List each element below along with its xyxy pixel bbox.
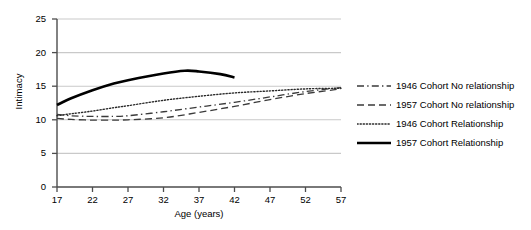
y-axis-title: Intimacy xyxy=(13,42,24,142)
x-tick-label: 52 xyxy=(294,194,318,205)
legend-item[interactable]: 1946 Cohort No relationship xyxy=(357,76,531,95)
x-tick-label: 17 xyxy=(45,194,69,205)
x-tick-label: 27 xyxy=(116,194,140,205)
x-tick-label: 42 xyxy=(223,194,247,205)
series-line-3 xyxy=(57,71,235,105)
legend-item[interactable]: 1957 Cohort No relationship xyxy=(357,95,531,114)
legend-swatch-dotted-icon xyxy=(357,118,391,130)
tick-marks xyxy=(52,19,341,192)
chart-figure: Intimacy Age (years) 2520151050 17222732… xyxy=(0,0,531,230)
y-tick-label: 25 xyxy=(24,13,46,24)
x-axis-title: Age (years) xyxy=(57,208,341,219)
legend-label: 1957 Cohort No relationship xyxy=(396,100,514,110)
x-tick-label: 22 xyxy=(81,194,105,205)
y-tick-label: 0 xyxy=(24,181,46,192)
legend-swatch-solid-icon xyxy=(357,137,391,149)
legend-label: 1946 Cohort No relationship xyxy=(396,81,514,91)
x-tick-label: 57 xyxy=(329,194,353,205)
x-tick-label: 47 xyxy=(258,194,282,205)
series-line-1 xyxy=(57,89,341,120)
x-tick-label: 37 xyxy=(187,194,211,205)
axis-lines xyxy=(57,19,341,187)
legend-swatch-dash-dot-icon xyxy=(357,80,391,92)
legend-label: 1946 Cohort Relationship xyxy=(396,119,503,129)
gridlines xyxy=(57,19,341,187)
x-tick-label: 32 xyxy=(152,194,176,205)
y-tick-label: 5 xyxy=(24,147,46,158)
series-lines xyxy=(57,71,341,121)
chart-legend: 1946 Cohort No relationship1957 Cohort N… xyxy=(357,76,531,152)
y-tick-label: 20 xyxy=(24,47,46,58)
legend-item[interactable]: 1946 Cohort Relationship xyxy=(357,114,531,133)
series-line-0 xyxy=(57,88,341,117)
y-tick-label: 15 xyxy=(24,80,46,91)
legend-item[interactable]: 1957 Cohort Relationship xyxy=(357,133,531,152)
legend-swatch-dashed-icon xyxy=(357,99,391,111)
legend-label: 1957 Cohort Relationship xyxy=(396,138,503,148)
y-tick-label: 10 xyxy=(24,114,46,125)
